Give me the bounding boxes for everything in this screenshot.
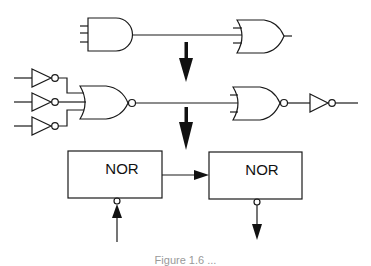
nor-gate-2: [230, 87, 310, 120]
nor-gate-1: [80, 86, 136, 119]
output-arrowhead-down: [252, 224, 262, 240]
input-inverter-3: [14, 110, 84, 135]
input-arrowhead-up: [112, 204, 122, 218]
block-1-input-bubble: [114, 198, 120, 204]
block-2-output-bubble: [254, 199, 260, 205]
block-arrowhead: [194, 170, 209, 180]
transform-arrow-2: [179, 107, 193, 150]
transform-arrow-1: [179, 42, 193, 82]
input-inverter-1: [14, 69, 84, 93]
output-inverter: [310, 94, 358, 112]
nor-block-2-label: NOR: [232, 161, 292, 178]
input-inverter-2: [14, 93, 86, 111]
and-gate: [80, 18, 133, 51]
figure-caption: Figure 1.6 ...: [0, 254, 371, 266]
or-gate: [233, 20, 292, 53]
nor-block-1-label: NOR: [92, 160, 152, 177]
